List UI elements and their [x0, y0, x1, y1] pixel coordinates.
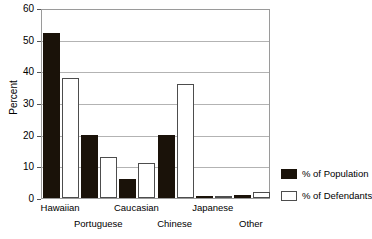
- gridline: [42, 41, 269, 42]
- y-axis-tick-label: 50: [4, 35, 34, 46]
- bar-japanese-population: [196, 196, 213, 198]
- legend-item-defendants: % of Defendants: [281, 190, 369, 201]
- bar-chinese-population: [158, 135, 175, 198]
- legend-swatch-defendants-icon: [281, 191, 297, 201]
- bar-portuguese-population: [81, 135, 98, 198]
- y-axis-tick-mark: [37, 199, 41, 200]
- chart-legend: % of Population % of Defendants: [281, 168, 369, 212]
- y-axis-tick-label: 60: [4, 3, 34, 14]
- gridline: [42, 72, 269, 73]
- y-axis-tick-label: 20: [4, 130, 34, 141]
- bar-chinese-defendants: [177, 84, 194, 198]
- y-axis-tick-label: 10: [4, 161, 34, 172]
- y-axis-tick-label: 30: [4, 98, 34, 109]
- bar-caucasian-population: [119, 179, 136, 198]
- legend-label-population: % of Population: [302, 168, 369, 179]
- bar-hawaiian-defendants: [62, 78, 79, 198]
- y-axis-tick-label: 40: [4, 66, 34, 77]
- x-axis-label-other: Other: [206, 218, 296, 229]
- bar-other-population: [234, 195, 251, 198]
- x-axis-label-japanese: Japanese: [168, 202, 258, 213]
- bar-hawaiian-population: [43, 33, 60, 198]
- plot-area: [41, 9, 270, 199]
- legend-swatch-population-icon: [281, 169, 297, 179]
- legend-label-defendants: % of Defendants: [302, 190, 372, 201]
- bar-portuguese-defendants: [100, 157, 117, 198]
- bar-other-defendants: [253, 192, 270, 198]
- bar-japanese-defendants: [215, 196, 232, 198]
- legend-item-population: % of Population: [281, 168, 369, 179]
- bar-caucasian-defendants: [138, 163, 155, 198]
